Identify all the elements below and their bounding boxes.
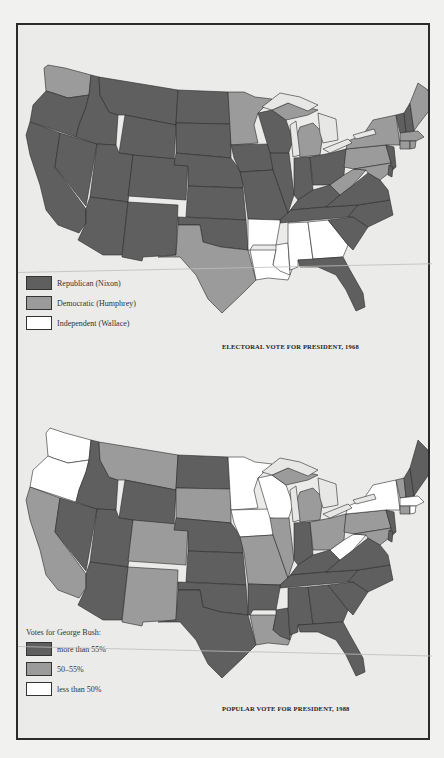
figure-frame: Republican (Nixon) Democratic (Humphrey)… [16,23,430,740]
state-DE [388,165,393,177]
state-AR [248,219,280,250]
swatch-low [26,682,52,696]
legend-label: Democratic (Humphrey) [57,299,136,308]
legend-1968: Republican (Nixon) Democratic (Humphrey)… [26,275,136,335]
legend-label: 50–55% [57,665,84,674]
legend-item-independent: Independent (Wallace) [26,315,136,331]
state-SD [176,123,231,158]
legend-item-republican: Republican (Nixon) [26,275,136,291]
legend-1988: Votes for George Bush: more than 55% 50–… [26,628,106,701]
swatch-republican [26,276,52,290]
state-RI [410,506,416,514]
legend-item-democratic: Democratic (Humphrey) [26,295,136,311]
state-NM [122,202,178,261]
state-CT [400,506,410,514]
legend-label: Independent (Wallace) [57,319,129,328]
state-FL [298,622,365,676]
swatch-democratic [26,296,52,310]
caption-1988: POPULAR VOTE FOR PRESIDENT, 1988 [222,705,350,712]
state-SD [176,488,231,523]
swatch-high [26,642,52,656]
state-KS [186,551,246,585]
state-ND [176,455,231,489]
state-MA [400,496,424,506]
legend-title: Votes for George Bush: [26,628,106,637]
swatch-mid [26,662,52,676]
legend-item-low: less than 50% [26,681,106,697]
state-NM [122,567,178,626]
legend-label: more than 55% [57,645,106,654]
state-ME [410,440,428,496]
state-ME [410,83,428,131]
caption-1968: ELECTORAL VOTE FOR PRESIDENT, 1968 [222,343,359,350]
legend-item-high: more than 55% [26,641,106,657]
state-MA [400,131,424,141]
state-AR [248,584,280,615]
state-CT [400,141,410,149]
state-KS [186,186,246,220]
legend-item-mid: 50–55% [26,661,106,677]
state-RI [410,141,416,149]
legend-label: Republican (Nixon) [57,279,121,288]
swatch-independent [26,316,52,330]
state-ND [176,90,231,124]
state-DE [388,530,393,542]
legend-label: less than 50% [57,685,101,694]
